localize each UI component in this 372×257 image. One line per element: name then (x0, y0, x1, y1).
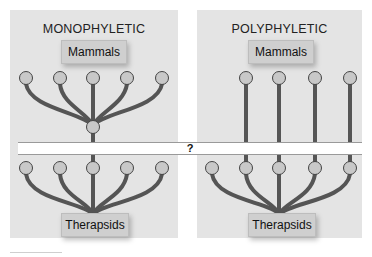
mammals-label-left: Mammals (61, 40, 127, 64)
branch (246, 174, 279, 214)
therapsids-label-left: Therapsids (61, 213, 129, 237)
taxon-node (206, 162, 219, 175)
taxon-node (240, 162, 253, 175)
taxon-node (20, 72, 33, 85)
taxon-node (54, 72, 67, 85)
taxon-node (54, 162, 67, 175)
question-mark: ? (18, 141, 362, 155)
taxon-node (309, 72, 322, 85)
taxon-node (344, 72, 357, 85)
taxon-node (121, 162, 134, 175)
branch (60, 84, 93, 125)
mammals-label-right: Mammals (248, 40, 314, 64)
branch (93, 174, 127, 214)
branch (279, 174, 315, 214)
taxon-node (156, 72, 169, 85)
divider (10, 252, 62, 253)
taxon-node (121, 72, 134, 85)
taxon-node (309, 162, 322, 175)
unknown-gap-band: ? (18, 142, 362, 155)
taxon-node (273, 162, 286, 175)
taxon-node (20, 162, 33, 175)
branch (60, 174, 93, 214)
taxon-node (156, 162, 169, 175)
therapsids-label-right: Therapsids (248, 213, 316, 237)
ancestor-node (87, 121, 100, 134)
branch (93, 84, 127, 125)
branch (93, 84, 162, 125)
taxon-node (344, 162, 357, 175)
taxon-node (87, 72, 100, 85)
taxon-node (87, 162, 100, 175)
taxon-node (240, 72, 253, 85)
taxon-node (273, 72, 286, 85)
phylogeny-diagram (0, 0, 372, 257)
